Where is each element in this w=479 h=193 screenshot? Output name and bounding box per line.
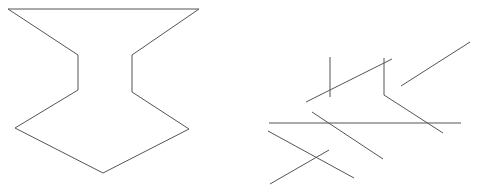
segment-diagonal-right [401, 42, 470, 86]
segment-diagonal-middle [312, 112, 383, 159]
segment-diagonal-upper [306, 59, 392, 102]
goblet-outline [8, 9, 199, 173]
segment-bent [384, 58, 443, 133]
segment-diagonal-lower [268, 131, 354, 178]
diagram-canvas [0, 0, 479, 193]
segment-diagonal-cross [270, 150, 329, 184]
